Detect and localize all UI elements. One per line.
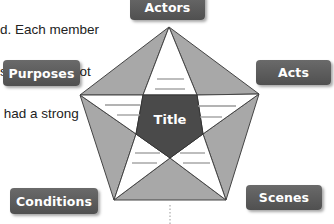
label-scenes: Scenes: [246, 185, 322, 210]
label-acts: Acts: [256, 60, 331, 85]
center-title: Title: [135, 112, 205, 127]
label-actors: Actors: [130, 0, 205, 20]
label-conditions: Conditions: [10, 188, 98, 214]
label-purposes: Purposes: [3, 60, 80, 86]
